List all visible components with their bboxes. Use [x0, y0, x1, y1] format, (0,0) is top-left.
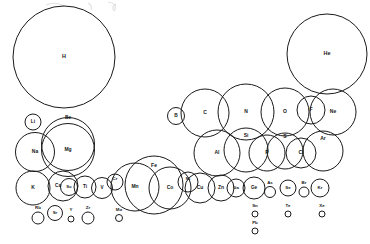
- atom-circle-sn: [252, 211, 258, 217]
- atom-al: Al: [194, 130, 240, 176]
- atom-label-kr: Kr: [318, 185, 323, 190]
- atom-label-se: Se: [285, 185, 291, 190]
- atom-ni: Ni: [178, 172, 198, 192]
- atom-label-zn: Zn: [218, 184, 224, 190]
- atom-circle-mn: [111, 163, 159, 211]
- atom-circle-ni: [178, 172, 198, 192]
- atom-na: Na: [16, 133, 55, 172]
- atom-circle-br: [299, 187, 309, 197]
- atom-mn: Mn: [111, 163, 159, 211]
- atom-label-ge: Ge: [251, 185, 258, 190]
- atom-circle-as: [265, 187, 276, 198]
- atom-label-o: O: [283, 108, 287, 114]
- atom-circles-layer: HHeLiBeBCNOFNeNaMgAlSiPSClArKCaScTiVCrMn…: [13, 6, 367, 234]
- atom-label-si: Si: [244, 132, 249, 138]
- atom-label-sc: Sc: [66, 184, 72, 189]
- atom-ne: Ne: [310, 89, 356, 135]
- atom-circle-sc: [61, 179, 78, 196]
- atom-label-ar: Ar: [320, 135, 326, 141]
- atom-label-li: Li: [31, 119, 35, 124]
- atom-cr: Cr: [107, 174, 123, 190]
- atom-mo: Mo: [116, 207, 123, 221]
- atom-label-rb: Rb: [35, 205, 41, 210]
- diagram-canvas: HHeLiBeBCNOFNeNaMgAlSiPSClArKCaScTiVCrMn…: [0, 0, 370, 244]
- atom-zr: Zr: [82, 205, 94, 224]
- atom-label-ti: Ti: [83, 184, 87, 189]
- atom-h: H: [13, 6, 115, 108]
- atom-circle-li: [25, 114, 41, 130]
- atom-y: Y: [68, 207, 74, 222]
- atom-circle-zn: [208, 175, 234, 201]
- atom-label-he: He: [324, 50, 331, 56]
- atom-xe: Xe: [319, 203, 325, 217]
- atom-kr: Kr: [311, 179, 329, 197]
- atom-label-ne: Ne: [330, 108, 337, 114]
- atom-label-zr: Zr: [86, 205, 91, 210]
- atom-circle-mo: [116, 215, 123, 222]
- atom-se: Se: [280, 180, 296, 196]
- atom-circle-se: [280, 180, 296, 196]
- atom-circle-h: [13, 6, 115, 108]
- atom-label-mn: Mn: [131, 183, 138, 189]
- atom-circle-o: [261, 88, 309, 136]
- atom-label-v: V: [100, 185, 104, 190]
- atom-label-al: Al: [215, 149, 221, 155]
- atom-circle-ca: [48, 171, 78, 201]
- atom-label-sr: Sr: [53, 210, 58, 215]
- atom-sn: Sn: [252, 203, 258, 217]
- atom-fe: Fe: [125, 156, 183, 214]
- atom-circle-rb: [32, 212, 44, 224]
- atom-circle-k: [16, 171, 50, 205]
- atom-circle-mg: [42, 124, 95, 177]
- atom-circle-si: [224, 128, 268, 172]
- atom-b: B: [168, 108, 185, 125]
- atom-circle-ge: [243, 177, 265, 199]
- atom-circle-he: [287, 14, 367, 94]
- atom-circle-cu: [185, 173, 215, 203]
- atom-label-te: Te: [286, 203, 291, 208]
- atom-o: O: [261, 88, 309, 136]
- atom-circle-pb: [252, 228, 258, 234]
- atom-k: K: [16, 171, 50, 205]
- atom-c: C: [181, 89, 229, 137]
- atom-label-n: N: [244, 108, 248, 114]
- atom-label-mg: Mg: [64, 146, 71, 152]
- atom-circle-na: [16, 133, 55, 172]
- atom-circle-ga: [227, 179, 245, 197]
- atom-sc: Sc: [61, 179, 78, 196]
- atom-circle-te: [285, 211, 291, 217]
- atom-te: Te: [285, 203, 291, 217]
- atom-ca: Ca: [48, 171, 78, 201]
- atom-cu: Cu: [185, 173, 215, 203]
- atom-circle-ne: [310, 89, 356, 135]
- atom-he: He: [287, 14, 367, 94]
- atom-zn: Zn: [208, 175, 234, 201]
- atom-circle-al: [194, 130, 240, 176]
- atom-circle-c: [181, 89, 229, 137]
- atom-circle-ar: [303, 131, 343, 171]
- atom-sr: Sr: [48, 206, 63, 221]
- atom-circle-cr: [107, 174, 123, 190]
- atom-label-y: Y: [70, 207, 73, 212]
- atom-circle-fe: [125, 156, 183, 214]
- atom-circle-b: [168, 108, 185, 125]
- artifact-mark-2: [88, 3, 92, 10]
- atom-as: As: [265, 180, 276, 197]
- atom-circle-be: [42, 118, 95, 171]
- atom-circle-kr: [311, 179, 329, 197]
- atom-label-c: C: [203, 109, 207, 115]
- atom-rb: Rb: [32, 205, 44, 224]
- atom-label-na: Na: [32, 148, 39, 154]
- atom-label-b: B: [174, 113, 178, 118]
- atomic-radii-diagram: HHeLiBeBCNOFNeNaMgAlSiPSClArKCaScTiVCrMn…: [0, 0, 370, 244]
- atom-mg: Mg: [42, 124, 95, 177]
- atom-pb: Pb: [252, 220, 258, 234]
- atom-label-k: K: [31, 184, 35, 190]
- atom-circle-y: [68, 216, 74, 222]
- atom-label-co: Co: [167, 184, 174, 190]
- atom-ge: Ge: [243, 177, 265, 199]
- atom-circle-xe: [319, 211, 325, 217]
- atom-br: Br: [299, 180, 309, 197]
- atom-label-as: As: [267, 180, 273, 185]
- atom-label-xe: Xe: [319, 203, 325, 208]
